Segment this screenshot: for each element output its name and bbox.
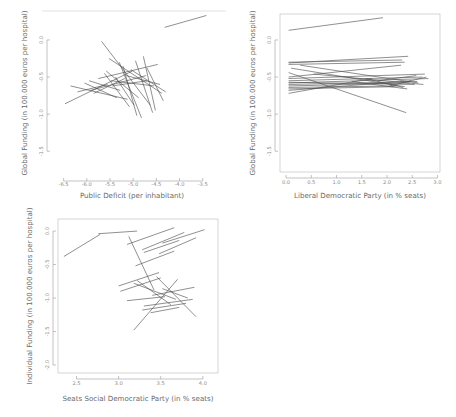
y-tick-label: -1.0 xyxy=(38,109,44,119)
y-tick-label: 0.0 xyxy=(266,36,272,44)
regression-line-segment xyxy=(144,240,179,252)
panel-3-svg: 2.53.03.54.00.0-0.5-1.0-1.5-2.0Seats Soc… xyxy=(0,205,240,417)
x-tick-label: 3.0 xyxy=(433,179,441,185)
y-axis-title: Individual Funding (in 100.000 euros per… xyxy=(25,207,34,384)
regression-line-segment xyxy=(120,278,160,291)
y-tick-label: -1.0 xyxy=(44,293,50,303)
x-tick-label: -3.5 xyxy=(198,181,208,187)
regression-line-segment xyxy=(94,79,125,94)
regression-line-segment xyxy=(142,303,186,310)
panel-individual-funding-vs-social-democratic-party: 2.53.03.54.00.0-0.5-1.0-1.5-2.0Seats Soc… xyxy=(0,205,240,417)
x-tick-label: -4.5 xyxy=(151,181,161,187)
regression-line-segment xyxy=(109,59,162,94)
regression-line-segment xyxy=(165,15,207,27)
y-tick-label: -1.5 xyxy=(44,326,50,336)
regression-line-segment xyxy=(289,18,383,31)
y-tick-label: -0.5 xyxy=(44,259,50,269)
x-tick-label: -6.0 xyxy=(82,181,92,187)
y-axis-title: Global Funding (in 100.000 euros per hos… xyxy=(20,10,29,175)
y-tick-label: -1.5 xyxy=(266,146,272,156)
regression-line-segment xyxy=(78,84,108,91)
regression-line-segment xyxy=(129,236,154,290)
x-axis-title: Liberal Democratic Party (in % seats) xyxy=(294,191,426,200)
y-tick-label: 0.0 xyxy=(38,36,44,44)
x-tick-label: 1.0 xyxy=(332,179,340,185)
regression-line-segment xyxy=(289,62,405,64)
regression-line-segment xyxy=(162,230,204,243)
regression-line-segment xyxy=(152,287,194,295)
y-tick-label: -0.5 xyxy=(266,72,272,82)
x-tick-label: 2.5 xyxy=(72,380,80,386)
y-tick-label: -0.5 xyxy=(38,72,44,82)
regression-line-segment xyxy=(119,62,141,118)
x-tick-label: -5.5 xyxy=(105,181,115,187)
x-tick-label: -4.0 xyxy=(174,181,184,187)
y-tick-label: -2.0 xyxy=(44,360,50,370)
panel-global-funding-vs-public-deficit: -6.5-6.0-5.5-5.0-4.5-4.0-3.50.0-0.5-1.0-… xyxy=(0,0,228,210)
x-axis-title: Public Deficit (per inhabitant) xyxy=(80,191,184,200)
regression-line-segment xyxy=(159,238,196,254)
x-tick-label: 0.5 xyxy=(307,179,315,185)
x-tick-label: 2.5 xyxy=(408,179,416,185)
x-tick-label: 1.5 xyxy=(358,179,366,185)
x-tick-label: 3.0 xyxy=(115,380,123,386)
regression-line-segment xyxy=(98,231,137,234)
y-axis-title: Global Funding (in 100.000 euros per hos… xyxy=(248,10,257,175)
regression-line-segment xyxy=(131,70,166,92)
regression-line-segment xyxy=(162,289,187,298)
y-tick-label: -1.5 xyxy=(38,146,44,156)
regression-line-segment xyxy=(144,299,193,306)
y-tick-label: -1.0 xyxy=(266,109,272,119)
regression-line-segment xyxy=(64,234,100,256)
x-tick-label: 2.0 xyxy=(383,179,391,185)
x-tick-label: 3.5 xyxy=(157,380,165,386)
x-tick-label: -6.5 xyxy=(59,181,69,187)
y-tick-label: 0.0 xyxy=(44,227,50,235)
panel-1-svg: -6.5-6.0-5.5-5.0-4.5-4.0-3.50.0-0.5-1.0-… xyxy=(0,0,228,210)
x-axis-title: Seats Social Democratic Party (in % seat… xyxy=(63,394,214,403)
regression-line-segment xyxy=(119,273,159,286)
panel-2-svg: 0.00.51.01.52.02.53.00.0-0.5-1.0-1.5Libe… xyxy=(228,0,456,210)
x-tick-label: 0.0 xyxy=(282,179,290,185)
panel-global-funding-vs-liberal-democratic-party: 0.00.51.01.52.02.53.00.0-0.5-1.0-1.5Libe… xyxy=(228,0,456,210)
x-tick-label: 4.0 xyxy=(199,380,207,386)
regression-line-segment xyxy=(134,279,178,330)
x-tick-label: -5.0 xyxy=(128,181,138,187)
regression-line-segment xyxy=(127,228,174,245)
regression-line-segment xyxy=(289,60,403,62)
